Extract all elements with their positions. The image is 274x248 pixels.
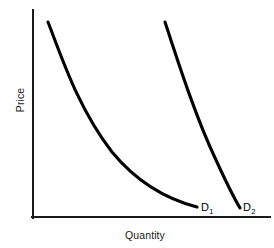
curve-label-d2-subscript: 2 bbox=[251, 207, 255, 216]
curve-label-d2: D2 bbox=[243, 201, 255, 213]
curve-label-d1-subscript: 1 bbox=[209, 207, 213, 216]
curve-label-d2-text: D bbox=[243, 201, 251, 213]
curve-label-d1-text: D bbox=[201, 201, 209, 213]
y-axis-label: Price bbox=[14, 83, 26, 117]
demand-shift-figure: Price Quantity D1 D2 bbox=[0, 0, 274, 248]
x-axis-label: Quantity bbox=[95, 229, 195, 241]
curve-label-d1: D1 bbox=[201, 201, 213, 213]
chart-canvas bbox=[0, 0, 274, 248]
demand-curve-d2 bbox=[165, 22, 240, 208]
